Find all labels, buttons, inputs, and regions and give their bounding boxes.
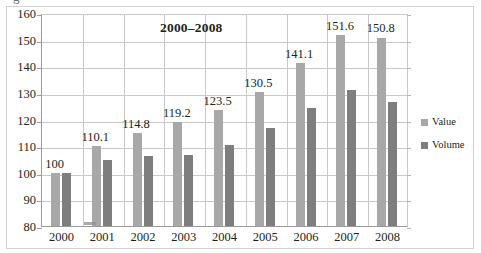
y-axis-label: 100 [8,168,36,181]
x-axis-label: 2007 [327,231,367,244]
y-axis-label: 110 [8,141,36,154]
data-label: 114.8 [122,118,150,131]
data-label: 150.8 [367,22,395,35]
y-axis-label: 130 [8,88,36,101]
bar-value[interactable] [92,146,101,226]
bar-volume[interactable] [103,160,112,226]
legend-swatch-value [421,119,428,126]
bar-value[interactable] [51,173,60,226]
y-axis-label: 150 [8,35,36,48]
y-tick [37,228,42,229]
cropped-text-artifact: g [13,0,27,5]
bar-group [205,15,246,226]
data-label: 119.2 [163,107,191,120]
data-label: 130.5 [244,77,272,90]
legend-label-volume: Volume [432,140,464,151]
legend-swatch-volume [421,142,428,149]
y-tick-right [407,228,411,229]
x-axis-label: 2000 [41,231,81,244]
bar-volume[interactable] [144,156,153,226]
chart-figure: g 1601501401301201101009080 100110.1114.… [0,0,481,253]
data-label: 123.5 [204,95,232,108]
x-axis-label: 2008 [368,231,408,244]
y-axis: 1601501401301201101009080 [5,14,36,227]
bar-group [327,15,368,226]
data-label: 110.1 [81,131,109,144]
bar-value[interactable] [255,92,264,226]
x-axis-label: 2002 [123,231,163,244]
data-label: 151.6 [326,20,354,33]
x-axis-label: 2004 [205,231,245,244]
bar-value[interactable] [336,35,345,226]
baseline-artifact [84,222,96,225]
cropped-glyph: g [13,0,20,5]
bar-group [164,15,205,226]
bar-group [42,15,83,226]
bar-volume[interactable] [266,128,275,227]
bar-volume[interactable] [184,155,193,226]
bar-volume[interactable] [347,90,356,226]
legend-item-value[interactable]: Value [421,117,473,127]
y-axis-label: 140 [8,61,36,74]
bar-group [83,15,124,226]
x-axis-label: 2005 [245,231,285,244]
x-axis-label: 2001 [82,231,122,244]
bar-group [368,15,409,226]
y-axis-label: 80 [8,221,36,234]
bar-volume[interactable] [388,102,397,226]
bar-value[interactable] [173,122,182,226]
bar-volume[interactable] [307,108,316,226]
bar-group [246,15,287,226]
x-axis-label: 2006 [286,231,326,244]
y-axis-label: 160 [8,8,36,21]
bar-value[interactable] [214,110,223,226]
data-label: 100 [45,158,64,171]
y-axis-label: 90 [8,194,36,207]
legend-item-volume[interactable]: Volume [421,140,473,150]
data-label: 141.1 [285,48,313,61]
bar-value[interactable] [377,38,386,227]
chart-title: 2000–2008 [160,20,223,36]
bar-volume[interactable] [62,173,71,226]
plot-area [41,14,408,227]
legend-label-value: Value [432,117,456,128]
chart-legend: Value Volume [421,117,473,163]
x-axis-label: 2003 [164,231,204,244]
bar-value[interactable] [133,133,142,226]
bar-value[interactable] [296,63,305,226]
y-axis-label: 120 [8,115,36,128]
bar-volume[interactable] [225,145,234,226]
